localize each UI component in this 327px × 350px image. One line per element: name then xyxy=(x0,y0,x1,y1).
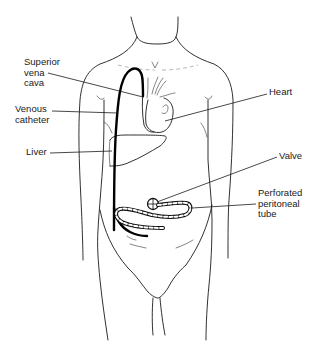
leader-perforated-tube xyxy=(192,204,256,208)
label-liver: Liver xyxy=(26,147,47,158)
liver xyxy=(109,135,166,166)
leader-venous-catheter xyxy=(52,111,118,113)
label-venous-catheter: Venous catheter xyxy=(15,104,49,125)
label-heart: Heart xyxy=(269,87,292,98)
leader-lines xyxy=(48,73,277,208)
legs xyxy=(152,298,165,335)
label-perforated-peritoneal-tube: Perforated peritoneal tube xyxy=(258,188,302,220)
clavicles xyxy=(118,62,198,70)
label-valve: Valve xyxy=(279,151,302,162)
anatomy-diagram xyxy=(0,0,327,350)
label-superior-vena-cava: Superior vena cava xyxy=(24,57,60,89)
leader-liver xyxy=(50,151,112,153)
pelvis xyxy=(127,236,193,298)
leader-heart xyxy=(165,94,267,121)
chest-details xyxy=(97,96,212,137)
leader-superior-vena-cava xyxy=(48,73,143,97)
heart xyxy=(142,77,175,133)
neck xyxy=(131,17,178,44)
